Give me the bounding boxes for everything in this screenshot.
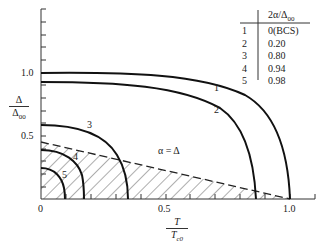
y-tick-1.0: 1.0 xyxy=(21,68,34,78)
curve-label-5: 5 xyxy=(62,170,67,180)
curve-label-4: 4 xyxy=(73,152,78,162)
y-label-numerator: Δ xyxy=(9,95,29,105)
legend-table: 2α/Δ00 10(BCS) 20.20 30.80 40.94 50.98 xyxy=(240,10,299,87)
y-label-denominator: Δ00 xyxy=(9,108,29,121)
x-tick-0: 0 xyxy=(38,204,43,214)
legend-row: 50.98 xyxy=(240,75,299,88)
x-label-numerator: T xyxy=(166,217,188,227)
curve-label-3: 3 xyxy=(87,120,92,130)
y-axis-label: Δ Δ00 xyxy=(9,95,29,121)
legend-row: 20.20 xyxy=(240,37,299,50)
x-tick-1.0: 1.0 xyxy=(283,204,296,214)
alpha-equals-delta-label: α = Δ xyxy=(158,146,180,156)
curve-label-2: 2 xyxy=(214,105,219,115)
y-tick-0.5: 0.5 xyxy=(21,131,34,141)
x-axis-label: T Tc0 xyxy=(166,217,188,243)
legend-row: 40.94 xyxy=(240,62,299,75)
curve-label-1: 1 xyxy=(214,83,219,93)
legend-row: 30.80 xyxy=(240,50,299,63)
x-label-bar xyxy=(166,228,188,229)
legend-header: 2α/Δ00 xyxy=(260,9,294,23)
legend-row: 10(BCS) xyxy=(240,25,299,38)
x-label-denominator: Tc0 xyxy=(166,230,188,243)
x-tick-0.5: 0.5 xyxy=(158,204,171,214)
